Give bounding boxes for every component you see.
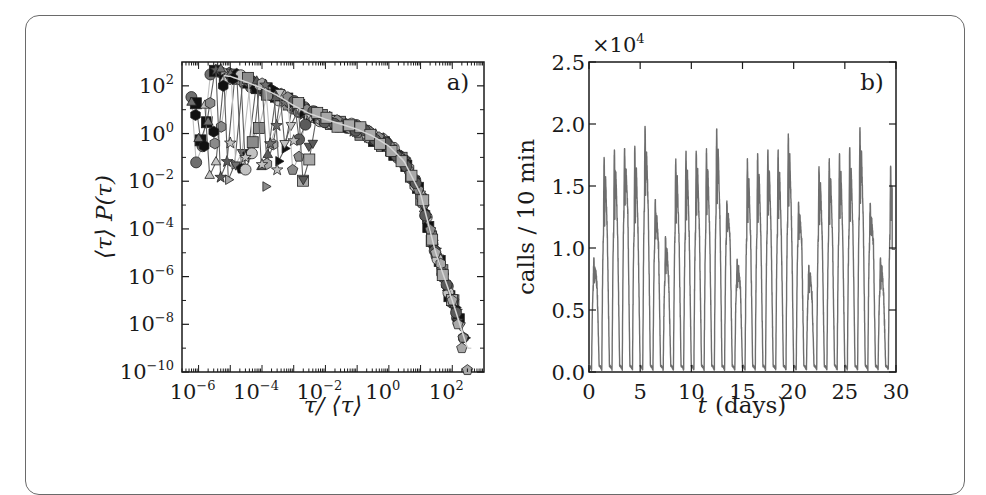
data-point-marker: [218, 80, 228, 91]
x-tick-label: 0: [582, 380, 595, 404]
data-point-marker: [199, 141, 209, 152]
y-tick-label: 1.5: [552, 175, 585, 199]
y-tick-label: 1.0: [552, 237, 585, 261]
x-tick-label: 102: [429, 378, 464, 404]
data-point-marker: [210, 138, 220, 149]
x-tick-label: 100: [365, 378, 400, 404]
y-tick-label: 102: [139, 72, 174, 98]
panel-b-y-multiplier: ×104: [592, 31, 645, 57]
data-point-marker: [191, 157, 202, 168]
y-tick-label: 10−10: [120, 358, 174, 384]
y-tick-label: 0.5: [552, 299, 585, 323]
y-tick-label: 2.0: [552, 113, 585, 137]
panel-a-tag: a): [447, 69, 470, 95]
panel-b-y-axis-title: calls / 10 min: [513, 139, 539, 295]
x-tick-label: 30: [883, 380, 910, 404]
panel-b-chart: 0.00.51.01.52.02.5051015202530 b) ×104 t…: [513, 31, 909, 418]
x-tick-label: 5: [633, 380, 646, 404]
panel-a-y-axis-title: ⟨τ⟩ P(τ): [91, 175, 117, 259]
y-tick-label: 10−6: [128, 263, 174, 289]
data-point-marker: [300, 119, 311, 130]
panel-a-chart: 10210010−210−410−610−810−1010−610−410−21…: [91, 62, 484, 418]
y-tick-label: 10−2: [128, 167, 174, 193]
x-tick-label: 10−6: [170, 378, 216, 404]
panel-b-tag: b): [860, 69, 884, 95]
data-point-marker: [247, 137, 258, 148]
y-tick-label: 10−4: [128, 215, 174, 241]
y-tick-label: 100: [139, 120, 174, 146]
x-tick-label: 25: [831, 380, 858, 404]
y-tick-label: 0.0: [552, 361, 585, 385]
data-point-marker: [304, 154, 315, 165]
y-tick-label: 10−8: [128, 310, 174, 336]
data-point-marker: [191, 109, 201, 120]
panel-a-axes-box: [182, 62, 484, 372]
panel-b-x-axis-title: t(days): [698, 392, 786, 418]
x-tick-label: 10−4: [233, 378, 279, 404]
panel-a-x-axis-title: τ/ ⟨τ⟩: [304, 392, 362, 418]
data-point-marker: [386, 146, 397, 157]
data-point-marker: [240, 164, 251, 175]
data-point-marker: [209, 126, 219, 137]
y-tick-label: 2.5: [552, 51, 585, 75]
data-point-marker: [293, 98, 304, 109]
data-point-marker: [205, 98, 215, 109]
